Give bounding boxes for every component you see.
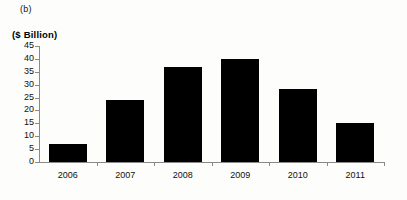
bar (106, 100, 144, 162)
x-tick-mark (269, 162, 270, 166)
y-tick-label: 25 (24, 92, 34, 102)
x-tick-label: 2011 (325, 170, 385, 180)
y-tick-label: 5 (29, 143, 34, 153)
y-tick-mark (35, 98, 39, 99)
y-tick-mark (35, 46, 39, 47)
y-tick-label: 0 (29, 156, 34, 166)
y-tick-label: 30 (24, 79, 34, 89)
y-tick-mark (35, 110, 39, 111)
y-tick-label: 10 (24, 130, 34, 140)
x-tick-mark (384, 162, 385, 166)
y-tick-label: 35 (24, 66, 34, 76)
plot-area: 051015202530354045 (39, 46, 384, 162)
x-tick-mark (97, 162, 98, 166)
x-tick-label: 2008 (153, 170, 213, 180)
x-tick-mark (327, 162, 328, 166)
y-tick-mark (35, 72, 39, 73)
y-tick-mark (35, 136, 39, 137)
figure-panel: (b) ($ Billion) 051015202530354045 20062… (0, 0, 407, 200)
y-tick-label: 40 (24, 53, 34, 63)
bar (279, 89, 317, 162)
y-tick-label: 45 (24, 40, 34, 50)
x-tick-label: 2009 (210, 170, 270, 180)
panel-label: (b) (20, 4, 32, 14)
bar (49, 144, 87, 162)
y-tick-mark (35, 85, 39, 86)
y-tick-mark (35, 123, 39, 124)
x-tick-label: 2006 (38, 170, 98, 180)
bar (164, 67, 202, 162)
y-tick-label: 15 (24, 117, 34, 127)
y-tick-label: 20 (24, 104, 34, 114)
y-tick-mark (35, 149, 39, 150)
y-tick-mark (35, 59, 39, 60)
y-axis-title: ($ Billion) (12, 29, 57, 40)
x-tick-label: 2007 (95, 170, 155, 180)
bar (221, 59, 259, 162)
x-tick-mark (212, 162, 213, 166)
bar (336, 123, 374, 162)
x-tick-mark (154, 162, 155, 166)
y-tick-mark (35, 162, 39, 163)
x-tick-label: 2010 (268, 170, 328, 180)
